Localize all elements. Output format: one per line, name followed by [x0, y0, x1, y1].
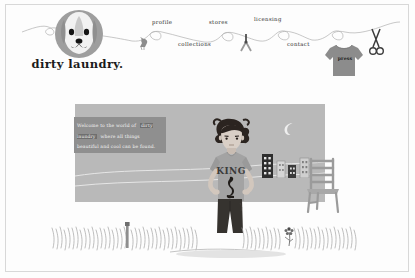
svg-text:KING: KING	[216, 166, 246, 176]
site-logo-text: dirty laundry.	[20, 57, 135, 71]
bird-icon	[136, 36, 152, 52]
hero-caption-line2: where all things	[101, 134, 140, 139]
hero-caption-line3: beautiful and cool can be found.	[77, 144, 155, 149]
page-root: dirty laundry. profile collections store…	[0, 0, 415, 278]
crescent-moon-icon	[281, 121, 297, 137]
nav-item-licensing[interactable]: licensing	[254, 16, 282, 22]
nav-item-contact[interactable]: contact	[287, 41, 310, 47]
character-shadow	[176, 250, 286, 258]
site-header: dirty laundry. profile collections store…	[0, 0, 415, 95]
nav-item-collections[interactable]: collections	[178, 41, 211, 47]
nav-item-stores[interactable]: stores	[209, 19, 228, 25]
press-label: press	[333, 56, 357, 61]
clothespin-icon	[238, 33, 254, 53]
hero-caption: Welcome to the world of dirty laundry wh…	[74, 117, 166, 153]
nav-item-profile[interactable]: profile	[152, 19, 172, 25]
flower-icon	[285, 227, 294, 246]
dog-face-icon	[53, 8, 105, 60]
hero-caption-line1: Welcome to the world of	[77, 123, 136, 128]
scissors-icon	[366, 27, 386, 59]
grass-icon	[0, 198, 415, 270]
site-logo[interactable]: dirty laundry.	[20, 8, 135, 73]
